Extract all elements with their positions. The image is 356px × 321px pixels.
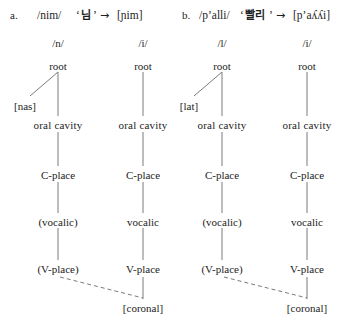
root-node-col1: root	[49, 61, 67, 72]
quote-close-b: ’	[269, 10, 273, 22]
v-place-node-col2: V-place	[126, 264, 160, 275]
surface-form-a: [ɲim]	[117, 10, 143, 22]
underlying-form-a: /nim/	[37, 10, 61, 22]
vocalic-node-col3: (vocalic)	[202, 217, 241, 228]
vocalic-node-col1: (vocalic)	[38, 217, 77, 228]
feature-geometry-diagram: a. /nim/ ‘ 님 ’ → [ɲim] b. /pʼalli/ ‘ ᄈ…	[0, 0, 356, 321]
vocalic-node-col4: vocalic	[291, 217, 323, 228]
oral-cavity-node-col1: oral cavity	[34, 120, 83, 131]
v-place-node-col4: V-place	[290, 264, 324, 275]
v-place-node-col3: (V-place)	[201, 264, 242, 275]
c-place-node-col3: C-place	[205, 170, 239, 181]
c-place-node-col1: C-place	[41, 170, 75, 181]
quote-close-a: ’	[93, 10, 97, 22]
arrow-icon-b: →	[276, 10, 285, 21]
line-root-to-nas-col1	[30, 72, 58, 96]
c-place-node-col2: C-place	[126, 170, 160, 181]
orthography-a: 님	[81, 10, 91, 21]
quote-open-a: ‘	[76, 10, 80, 22]
coronal-feature-b: [coronal]	[287, 303, 327, 314]
root-node-col3: root	[213, 61, 231, 72]
orthography-b: 빨리	[245, 10, 265, 21]
example-label-a: a.	[10, 10, 18, 21]
c-place-node-col4: C-place	[290, 170, 324, 181]
coronal-feature-a: [coronal]	[123, 303, 163, 314]
oral-cavity-node-col2: oral cavity	[119, 120, 168, 131]
oral-cavity-node-col3: oral cavity	[198, 120, 247, 131]
arrow-icon-a: →	[100, 10, 109, 21]
phoneme-col4: /i/	[302, 38, 311, 49]
line-root-to-lat-col3	[194, 72, 222, 96]
phoneme-col1: /n/	[52, 38, 64, 49]
surface-form-b: [pʼaʎʎi]	[293, 10, 330, 22]
dashed-association-line-a	[60, 277, 143, 298]
root-node-col2: root	[134, 61, 152, 72]
phoneme-col3: /l/	[217, 38, 226, 49]
phoneme-col2: /i/	[138, 38, 147, 49]
oral-cavity-node-col4: oral cavity	[283, 120, 332, 131]
quote-open-b: ‘	[240, 10, 244, 22]
dashed-association-line-b	[224, 277, 307, 298]
v-place-node-col1: (V-place)	[37, 264, 78, 275]
manner-feature-col3: [lat]	[180, 101, 198, 112]
vocalic-node-col2: vocalic	[127, 217, 159, 228]
example-label-b: b.	[182, 10, 190, 21]
underlying-form-b: /pʼalli/	[199, 10, 230, 22]
manner-feature-col1: [nas]	[14, 101, 36, 112]
root-node-col4: root	[298, 61, 316, 72]
